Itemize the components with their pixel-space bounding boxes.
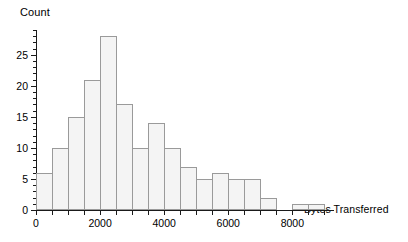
- histogram-bar: [228, 179, 245, 210]
- y-axis-tick-label: 20: [6, 81, 28, 91]
- x-axis-tick: [132, 211, 133, 215]
- x-axis-tick: [196, 211, 197, 215]
- histogram-chart: Count Bytes Transferred 0510152025 02000…: [0, 0, 408, 242]
- x-axis-tick: [308, 211, 309, 215]
- x-axis-tick: [228, 211, 229, 215]
- y-axis-tick-label: 15: [6, 112, 28, 122]
- histogram-bar: [68, 117, 85, 210]
- plot-area: [36, 30, 334, 210]
- y-axis-tick-label: 0: [6, 205, 28, 215]
- x-axis-tick: [36, 211, 37, 215]
- histogram-bar: [180, 167, 197, 210]
- histogram-bar: [164, 148, 181, 210]
- x-axis-tick-label: 6000: [217, 217, 240, 229]
- x-axis-tick: [292, 211, 293, 215]
- x-axis-tick: [212, 211, 213, 215]
- x-axis-tick: [244, 211, 245, 215]
- histogram-bar: [292, 204, 309, 210]
- x-axis-tick: [68, 211, 69, 215]
- x-axis-tick-label: 8000: [281, 217, 304, 229]
- y-axis-tick-label: 25: [6, 50, 28, 60]
- x-axis-tick: [180, 211, 181, 215]
- y-axis-tick-label: 5: [6, 174, 28, 184]
- histogram-bar: [196, 179, 213, 210]
- x-axis-tick: [148, 211, 149, 215]
- x-axis-tick: [116, 211, 117, 215]
- histogram-bar: [148, 123, 165, 210]
- x-axis-tick: [324, 211, 325, 215]
- histogram-bar: [100, 36, 117, 210]
- histogram-bar: [116, 104, 133, 210]
- x-axis-tick: [164, 211, 165, 215]
- x-axis-tick-label: 0: [33, 217, 39, 229]
- x-axis-tick: [260, 211, 261, 215]
- y-axis-tick-label: 10: [6, 143, 28, 153]
- x-axis-tick: [84, 211, 85, 215]
- histogram-bar: [84, 80, 101, 210]
- histogram-bar: [132, 148, 149, 210]
- histogram-bar: [244, 179, 261, 210]
- histogram-bar: [36, 173, 53, 210]
- histogram-bar: [260, 198, 277, 210]
- histogram-bar: [308, 204, 325, 210]
- histogram-bar: [52, 148, 69, 210]
- x-axis-tick: [100, 211, 101, 215]
- histogram-bar: [212, 173, 229, 210]
- y-axis-labels: 0510152025: [4, 0, 28, 242]
- x-axis-tick: [52, 211, 53, 215]
- x-axis-tick: [276, 211, 277, 215]
- x-axis-tick-label: 2000: [88, 217, 111, 229]
- x-axis-line: [36, 210, 334, 211]
- x-axis-tick-label: 4000: [152, 217, 175, 229]
